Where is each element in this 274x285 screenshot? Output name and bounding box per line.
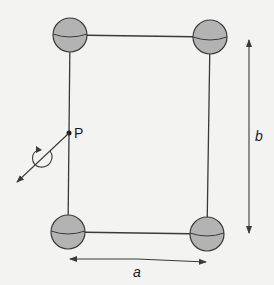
rotation-axis-arrow xyxy=(17,133,69,182)
dimension-label-b: b xyxy=(255,129,263,143)
rod-bottom xyxy=(68,232,207,234)
sphere-top-left xyxy=(53,18,87,52)
frame-diagram xyxy=(0,0,274,285)
sphere-bottom-left xyxy=(51,215,85,249)
rod-right xyxy=(207,37,210,234)
dimension-label-a: a xyxy=(133,265,141,279)
frame-rods xyxy=(68,35,210,234)
rod-top xyxy=(70,35,210,37)
point-p-label: P xyxy=(74,126,83,140)
dimension-arrow-a-right xyxy=(137,259,206,262)
sphere-bottom-right xyxy=(190,217,224,251)
rotation-arrowhead-icon xyxy=(36,146,42,153)
sphere-top-right xyxy=(193,20,227,54)
